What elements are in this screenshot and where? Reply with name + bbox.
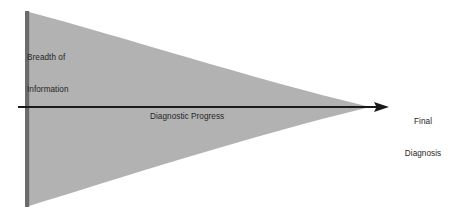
final-diagnosis-label: Final Diagnosis: [398, 96, 448, 181]
breadth-of-information-funnel: [29, 12, 366, 206]
final-diagnosis-label-line1: Final: [398, 117, 448, 128]
breadth-of-information-label-line2: Information: [27, 85, 69, 96]
diagnostic-progress-label: Diagnostic Progress: [150, 112, 224, 123]
breadth-of-information-label: Breadth of Information: [27, 32, 69, 117]
final-diagnosis-label-line2: Diagnosis: [398, 149, 448, 160]
breadth-of-information-label-line1: Breadth of: [27, 53, 69, 64]
diagram-canvas: Breadth of Information Diagnostic Progre…: [0, 0, 456, 216]
